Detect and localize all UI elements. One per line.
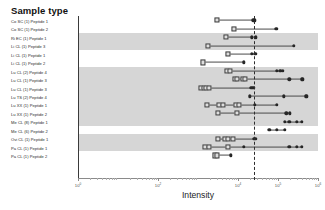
series-row [78,151,318,159]
legend-item: Ri EC (1) Peptide 1 [11,35,75,43]
legend-list: Co SC (1) Peptide 1Co SC (1) Peptide 2Ri… [11,18,75,161]
open-square-marker [207,144,212,149]
x-minor-tick [316,178,317,180]
x-tick [278,178,279,181]
x-tick [78,178,79,181]
x-minor-tick [297,178,298,180]
open-square-marker [215,18,220,23]
series-row [78,109,318,117]
x-minor-tick [156,178,157,180]
x-minor-tick [312,178,313,180]
filled-circle-marker [284,111,287,114]
x-minor-tick [262,178,263,180]
x-minor-tick [102,178,103,180]
series-row [78,75,318,83]
x-minor-tick [314,178,315,180]
filled-circle-marker [267,128,270,131]
legend-item: Lu CL (2) Peptide 4 [11,69,75,77]
open-square-marker [225,51,230,56]
series-row [78,134,318,142]
x-minor-tick [306,178,307,180]
open-square-marker [206,43,211,48]
filled-circle-marker [283,128,286,131]
legend-item: Co SC (1) Peptide 2 [11,26,75,34]
series-row [78,16,318,24]
x-tick-label: 100 [75,182,81,188]
x-minor-tick [177,178,178,180]
legend-title: Sample type [11,5,68,16]
filled-circle-marker [275,103,278,106]
open-square-marker [216,111,221,116]
filled-circle-marker [229,154,232,157]
x-minor-tick [276,178,277,180]
series-row [78,126,318,134]
range-segment [250,96,307,97]
range-segment [208,45,294,46]
x-minor-tick [112,178,113,180]
open-square-marker [227,68,232,73]
x-minor-tick [302,178,303,180]
x-minor-tick [266,178,267,180]
x-minor-tick [114,178,115,180]
legend-item: Lu XX (1) Peptide 1 [11,102,75,110]
x-minor-tick [90,178,91,180]
series-row [78,33,318,41]
x-tick-label: 105 [275,182,281,188]
chart-figure: Sample type Co SC (1) Peptide 1Co SC (1)… [0,0,325,210]
x-minor-tick [192,178,193,180]
filled-circle-marker [300,145,303,148]
x-minor-tick [222,178,223,180]
open-square-marker [231,136,236,141]
filled-circle-marker [283,120,286,123]
filled-circle-marker [275,128,278,131]
x-minor-tick [106,178,107,180]
series-row [78,117,318,125]
x-minor-tick [109,178,110,180]
series-row [78,67,318,75]
series-row [78,50,318,58]
x-tick [158,178,159,181]
open-square-marker [242,77,247,82]
x-minor-tick [234,178,235,180]
x-minor-tick [149,178,150,180]
y-axis-spine [78,16,79,178]
x-minor-tick [229,178,230,180]
x-axis-title: Intensity [78,190,318,200]
filled-circle-marker [248,95,251,98]
reference-line [254,16,255,180]
legend-item: Lu XX (1) Peptide 2 [11,111,75,119]
filled-circle-marker [242,145,245,148]
x-minor-tick [232,178,233,180]
open-square-marker [236,102,241,107]
x-minor-tick [189,178,190,180]
filled-circle-marker [287,78,290,81]
x-minor-tick [217,178,218,180]
range-segment [234,28,276,29]
plot-area [78,16,318,178]
open-square-marker [215,153,220,158]
open-square-marker [205,102,210,107]
x-minor-tick [226,178,227,180]
legend-item: Me CL (8) Peptide 1 [11,119,75,127]
open-square-marker [207,85,212,90]
x-minor-tick [170,178,171,180]
x-minor-tick [116,178,117,180]
x-minor-tick [210,178,211,180]
x-minor-tick [182,178,183,180]
filled-circle-marker [242,61,245,64]
open-square-marker [235,77,240,82]
series-row [78,24,318,32]
x-tick-label: 106 [315,182,321,188]
legend-item: Pa CL (1) Peptide 1 [11,145,75,153]
x-minor-tick [274,178,275,180]
x-minor-tick [146,178,147,180]
open-square-marker [215,136,220,141]
open-square-marker [225,144,230,149]
x-minor-tick [290,178,291,180]
open-square-marker [223,35,228,40]
filled-circle-marker [300,120,303,123]
series-row [78,92,318,100]
open-square-marker [232,26,237,31]
x-minor-tick [269,178,270,180]
series-row [78,58,318,66]
